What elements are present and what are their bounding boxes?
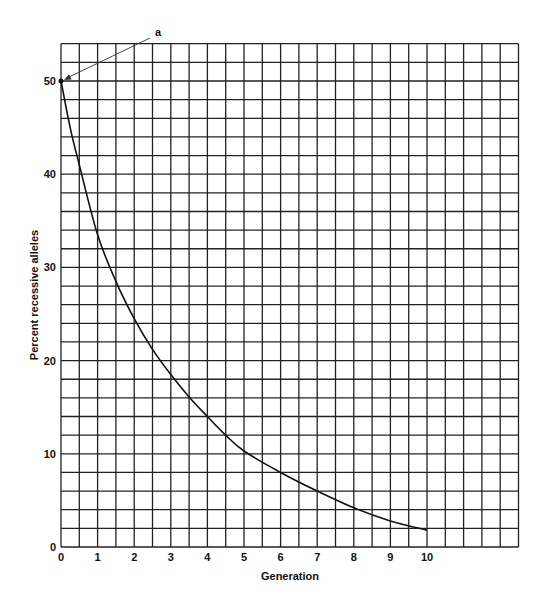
x-tick-label: 0	[58, 551, 64, 563]
y-tick-label: 20	[44, 355, 56, 367]
y-tick-label: 0	[50, 541, 56, 553]
x-tick-label: 5	[241, 551, 247, 563]
x-tick-label: 4	[204, 551, 211, 563]
x-tick-label: 1	[95, 551, 101, 563]
x-axis-ticks: 012345678910	[58, 551, 433, 563]
x-tick-label: 3	[168, 551, 174, 563]
arrowhead-icon	[64, 74, 72, 80]
y-axis-ticks: 01020304050	[44, 75, 56, 553]
y-axis-label: Percent recessive alleles	[28, 230, 40, 360]
grid	[61, 44, 519, 547]
y-tick-label: 30	[44, 261, 56, 273]
y-tick-label: 50	[44, 75, 56, 87]
x-tick-label: 6	[278, 551, 284, 563]
x-tick-label: 2	[131, 551, 137, 563]
chart: a 012345678910 01020304050 Generation Pe…	[0, 0, 545, 605]
x-axis-label: Generation	[261, 570, 319, 582]
annotation-label: a	[155, 26, 162, 38]
y-tick-label: 40	[44, 168, 56, 180]
x-tick-label: 10	[421, 551, 433, 563]
x-tick-label: 7	[314, 551, 320, 563]
start-point	[59, 79, 64, 84]
x-tick-label: 8	[351, 551, 357, 563]
x-tick-label: 9	[387, 551, 393, 563]
y-tick-label: 10	[44, 448, 56, 460]
